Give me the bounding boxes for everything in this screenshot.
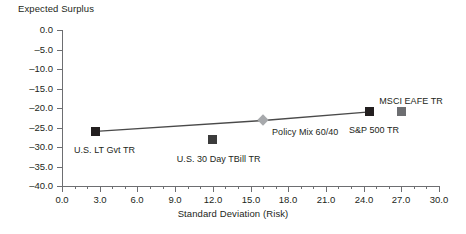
- data-point-label: Policy Mix 60/40: [272, 127, 338, 137]
- data-point-marker: [91, 127, 100, 136]
- data-point-marker: [208, 135, 217, 144]
- x-tick-label: 12.0: [193, 194, 233, 205]
- x-tick-mark-major: [401, 186, 402, 192]
- x-tick-mark-minor: [313, 186, 314, 189]
- x-tick-label: 27.0: [381, 194, 421, 205]
- x-tick-mark-major: [439, 186, 440, 192]
- x-tick-mark-major: [100, 186, 101, 192]
- data-point-label: U.S. LT Gvt TR: [74, 145, 135, 155]
- data-point-marker: [365, 107, 374, 116]
- x-tick-mark-minor: [225, 186, 226, 189]
- y-tick-mark: [57, 128, 62, 129]
- x-tick-label: 21.0: [306, 194, 346, 205]
- x-tick-label: 15.0: [231, 194, 271, 205]
- x-tick-mark-minor: [376, 186, 377, 189]
- y-tick-mark: [57, 147, 62, 148]
- x-tick-label: 18.0: [268, 194, 308, 205]
- data-point-label: S&P 500 TR: [349, 125, 399, 135]
- data-point-label: U.S. 30 Day TBill TR: [177, 154, 261, 164]
- x-tick-mark-minor: [112, 186, 113, 189]
- x-tick-mark-minor: [87, 186, 88, 189]
- x-tick-label: 6.0: [117, 194, 157, 205]
- y-tick-label: –20.0: [7, 102, 53, 113]
- expected-surplus-risk-chart: Expected Surplus 0.0–5.0–10.0–15.0–20.0–…: [0, 0, 466, 234]
- x-tick-label: 24.0: [344, 194, 384, 205]
- x-tick-mark-major: [364, 186, 365, 192]
- x-tick-mark-minor: [75, 186, 76, 189]
- x-tick-mark-minor: [150, 186, 151, 189]
- x-tick-mark-minor: [200, 186, 201, 189]
- y-tick-mark: [57, 30, 62, 31]
- x-tick-mark-minor: [188, 186, 189, 189]
- y-tick-mark: [57, 108, 62, 109]
- x-tick-mark-minor: [338, 186, 339, 189]
- y-tick-label: –35.0: [7, 161, 53, 172]
- y-axis-title: Expected Surplus: [18, 3, 94, 14]
- x-tick-label: 9.0: [155, 194, 195, 205]
- y-tick-label: –5.0: [7, 44, 53, 55]
- y-tick-label: –30.0: [7, 141, 53, 152]
- y-tick-mark: [57, 89, 62, 90]
- x-tick-mark-minor: [238, 186, 239, 189]
- x-tick-label: 30.0: [419, 194, 459, 205]
- x-tick-mark-minor: [414, 186, 415, 189]
- y-tick-label: –15.0: [7, 83, 53, 94]
- y-tick-mark: [57, 50, 62, 51]
- x-tick-mark-major: [175, 186, 176, 192]
- data-point-marker: [397, 107, 406, 116]
- y-tick-label: –25.0: [7, 122, 53, 133]
- x-tick-mark-minor: [125, 186, 126, 189]
- y-tick-mark: [57, 167, 62, 168]
- x-tick-mark-minor: [263, 186, 264, 189]
- x-tick-mark-minor: [426, 186, 427, 189]
- data-point-marker: [257, 115, 268, 126]
- x-tick-mark-major: [62, 186, 63, 192]
- y-tick-label: 0.0: [7, 24, 53, 35]
- x-tick-label: 3.0: [80, 194, 120, 205]
- x-tick-label: 0.0: [42, 194, 82, 205]
- y-axis-line: [62, 30, 63, 186]
- x-tick-mark-major: [288, 186, 289, 192]
- y-tick-mark: [57, 69, 62, 70]
- x-tick-mark-minor: [389, 186, 390, 189]
- x-axis-title: Standard Deviation (Risk): [0, 208, 466, 219]
- y-tick-label: –10.0: [7, 63, 53, 74]
- x-tick-mark-minor: [276, 186, 277, 189]
- x-tick-mark-major: [251, 186, 252, 192]
- x-tick-mark-minor: [163, 186, 164, 189]
- x-tick-mark-minor: [351, 186, 352, 189]
- x-tick-mark-major: [326, 186, 327, 192]
- x-tick-mark-major: [213, 186, 214, 192]
- data-point-label: MSCI EAFE TR: [379, 96, 442, 106]
- y-tick-label: –40.0: [7, 180, 53, 191]
- x-tick-mark-minor: [301, 186, 302, 189]
- x-tick-mark-major: [137, 186, 138, 192]
